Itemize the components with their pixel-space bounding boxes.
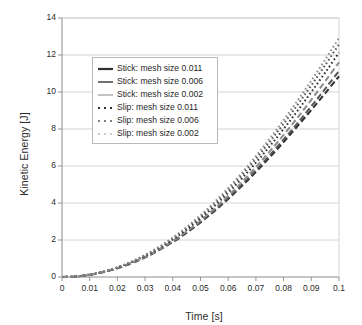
- legend-item-label: Slip: mesh size 0.011: [117, 102, 198, 113]
- y-tick-label: 14: [24, 12, 56, 22]
- legend-line-icon: [97, 103, 114, 113]
- x-axis-title: Time [s]: [0, 310, 362, 322]
- legend-item: Slip: mesh size 0.002: [97, 127, 212, 140]
- chart-figure: 02468101214 00.010.020.030.040.050.060.0…: [0, 0, 362, 325]
- legend-line-icon: [97, 129, 114, 139]
- legend-line-icon: [97, 90, 114, 100]
- legend-item: Slip: mesh size 0.011: [97, 101, 212, 114]
- chart-legend: Stick: mesh size 0.011Stick: mesh size 0…: [92, 57, 218, 144]
- legend-item: Slip: mesh size 0.006: [97, 114, 212, 127]
- legend-line-icon: [97, 64, 114, 74]
- legend-item-label: Slip: mesh size 0.006: [117, 115, 199, 126]
- legend-line-icon: [97, 77, 114, 87]
- y-tick-label: 12: [24, 49, 56, 59]
- legend-line-icon: [97, 116, 114, 126]
- y-axis-title: Kinetic Energy [J]: [18, 74, 30, 234]
- legend-item-label: Stick: mesh size 0.011: [117, 63, 202, 74]
- x-tick-label: 0.1: [323, 283, 355, 293]
- y-tick-label: 2: [24, 234, 56, 244]
- legend-item-label: Stick: mesh size 0.002: [117, 89, 203, 100]
- legend-item: Stick: mesh size 0.011: [97, 62, 212, 75]
- legend-item: Stick: mesh size 0.006: [97, 75, 212, 88]
- y-tick-label: 0: [24, 271, 56, 281]
- legend-item-label: Slip: mesh size 0.002: [117, 128, 199, 139]
- legend-item: Stick: mesh size 0.002: [97, 88, 212, 101]
- legend-item-label: Stick: mesh size 0.006: [117, 76, 203, 87]
